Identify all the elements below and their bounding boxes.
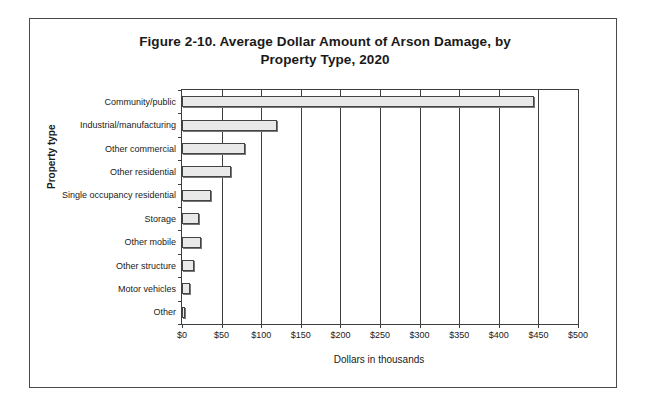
bar [182,237,201,248]
x-gridline [538,90,539,324]
y-axis-tick [178,160,182,161]
y-axis-category-label: Industrial/manufacturing [80,120,176,130]
y-axis-category-label: Community/public [104,97,176,107]
bar [182,166,231,177]
y-axis-tick [178,254,182,255]
y-axis-tick [178,277,182,278]
chart-title-line-1: Figure 2-10. Average Dollar Amount of Ar… [90,33,560,51]
y-axis-category-label: Other commercial [105,144,176,154]
plot-area: $0$50$100$150$200$250$300$350$400$450$50… [181,89,579,325]
chart-title: Figure 2-10. Average Dollar Amount of Ar… [90,33,560,69]
x-axis-tick [182,324,183,328]
x-axis-tick [222,324,223,328]
y-axis-category-label: Motor vehicles [118,284,176,294]
x-gridline [380,90,381,324]
x-axis-tick [340,324,341,328]
y-axis-category-label: Single occupancy residential [62,190,176,200]
y-axis-tick [178,324,182,325]
x-axis-tick [499,324,500,328]
x-axis-tick-label: $0 [177,330,187,340]
x-gridline [459,90,460,324]
y-axis-title: Property type [46,125,57,189]
bar [182,213,199,224]
x-axis-title: Dollars in thousands [181,354,577,365]
y-axis-tick [178,90,182,91]
bar [182,283,190,294]
y-axis-category-label: Other residential [110,167,176,177]
x-axis-tick [459,324,460,328]
x-axis-tick-label: $450 [528,330,548,340]
x-gridline [420,90,421,324]
x-axis-tick-label: $50 [214,330,229,340]
y-axis-tick [178,113,182,114]
x-axis-tick [380,324,381,328]
x-axis-tick-label: $300 [410,330,430,340]
chart-title-line-2: Property Type, 2020 [90,51,560,69]
bar [182,120,277,131]
x-gridline [301,90,302,324]
y-axis-category-label: Other mobile [124,237,176,247]
bar [182,307,185,318]
x-axis-tick-label: $150 [291,330,311,340]
x-gridline [499,90,500,324]
x-axis-tick [420,324,421,328]
x-axis-tick [301,324,302,328]
bar [182,96,534,107]
bar [182,260,194,271]
x-axis-tick [261,324,262,328]
x-gridline [340,90,341,324]
x-axis-tick-label: $100 [251,330,271,340]
y-axis-category-label: Other structure [116,261,176,271]
y-axis-tick [178,301,182,302]
x-axis-tick-label: $200 [330,330,350,340]
y-axis-tick [178,230,182,231]
x-axis-tick-label: $250 [370,330,390,340]
bar [182,143,245,154]
y-axis-category-label: Storage [144,214,176,224]
x-axis-tick [578,324,579,328]
x-axis-tick-label: $500 [568,330,588,340]
y-axis-category-label: Other [153,307,176,317]
bar [182,190,211,201]
x-axis-tick-label: $400 [489,330,509,340]
figure-frame: Figure 2-10. Average Dollar Amount of Ar… [29,18,617,388]
x-axis-tick-label: $350 [449,330,469,340]
y-axis-tick [178,184,182,185]
x-axis-tick [538,324,539,328]
y-axis-tick [178,137,182,138]
y-axis-tick [178,207,182,208]
